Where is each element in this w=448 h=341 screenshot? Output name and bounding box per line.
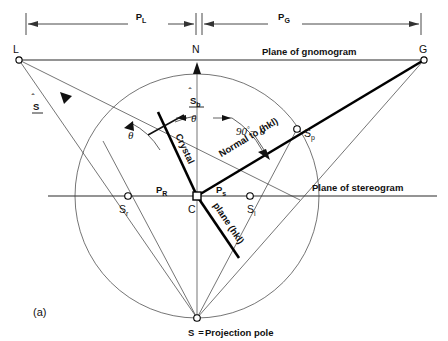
figure-caption: (a) bbox=[33, 306, 46, 318]
point-marker-S bbox=[194, 315, 201, 322]
ray-Sp-to-S bbox=[197, 129, 297, 318]
point-label-C: C bbox=[188, 203, 196, 215]
dimension-line-PG: PG bbox=[202, 11, 421, 35]
segment-label-PR: PR bbox=[156, 184, 167, 197]
dimension-line-PL: PL bbox=[26, 11, 196, 35]
point-label-Sl: Sl bbox=[247, 203, 256, 217]
plane-of-gnomogram-label: Plane of gnomogram bbox=[262, 46, 356, 57]
point-label-G: G bbox=[419, 43, 427, 55]
point-label-Sr: Sr bbox=[119, 203, 129, 217]
S-hat-b-caret: ̂ bbox=[188, 87, 192, 89]
dimension-label-PG: PG bbox=[278, 11, 290, 24]
svg-text:S: S bbox=[33, 101, 39, 112]
point-marker-C bbox=[193, 192, 201, 200]
angle-label-theta-top: θ bbox=[191, 112, 197, 124]
gnomonic-stereographic-projection-figure: PL PG bbox=[0, 0, 448, 341]
point-marker-L bbox=[16, 57, 22, 63]
angle-theta-top-arrow-right bbox=[222, 115, 231, 121]
point-label-N: N bbox=[192, 43, 200, 55]
figure-canvas: PL PG bbox=[0, 0, 448, 341]
plane-of-stereogram-label: Plane of stereogram bbox=[312, 182, 403, 193]
arrowhead-incident-beam bbox=[60, 92, 72, 104]
segment-label-Ps: Ps bbox=[216, 184, 226, 197]
projection-pole-note: S=Projection pole bbox=[188, 327, 274, 338]
svg-text:S=Projection pole: S=Projection pole bbox=[188, 327, 274, 338]
S-hat-caret: ̂ bbox=[31, 93, 35, 95]
point-marker-Sl bbox=[247, 193, 254, 200]
ray-label-crystal: Crystal bbox=[173, 132, 197, 166]
dimension-label-PL: PL bbox=[136, 11, 147, 24]
arrowhead-Sb-at-N bbox=[193, 62, 201, 74]
point-marker-Sr bbox=[125, 193, 132, 200]
vector-label-S-hat-b: Sb ̂ bbox=[188, 87, 204, 108]
angle-label-theta-left: θ bbox=[128, 129, 134, 141]
vector-label-S-hat: S ̂ bbox=[31, 93, 43, 113]
angle-arc-theta-left bbox=[131, 123, 160, 150]
point-marker-Sp bbox=[294, 126, 301, 133]
svg-text:Sb: Sb bbox=[190, 95, 201, 108]
point-label-L: L bbox=[13, 43, 19, 55]
point-marker-G bbox=[421, 57, 427, 63]
